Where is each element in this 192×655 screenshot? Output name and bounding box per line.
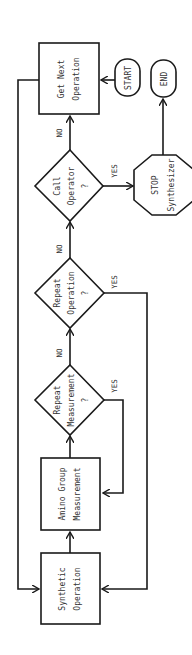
label-no-call-operator: NO xyxy=(55,128,64,138)
amino-line2: Measurement xyxy=(73,467,82,520)
synthetic-line2: Operation xyxy=(73,567,82,611)
repeat-measurement-line1: Repeat xyxy=(53,385,62,414)
node-repeat-measurement: Repeat Measurement ? xyxy=(35,365,104,435)
repeat-operation-line2: Operation xyxy=(67,271,76,315)
node-start: START xyxy=(115,59,140,96)
node-repeat-operation: Repeat Operation ? xyxy=(35,258,104,328)
repeat-measurement-line2: Measurement xyxy=(67,373,76,426)
flowchart: Get Next Operation START END Call Operat… xyxy=(0,0,192,655)
edge-repeat-operation-yes xyxy=(102,293,147,589)
node-end: END xyxy=(151,60,176,97)
edge-get-next-to-synthetic xyxy=(18,80,39,589)
label-yes-call-operator: YES xyxy=(110,164,119,178)
node-call-operator: Call Operator ? xyxy=(35,150,103,221)
repeat-operation-line1: Repeat xyxy=(53,278,62,307)
call-operator-line1: Call xyxy=(53,176,62,195)
repeat-operation-line3: ? xyxy=(81,290,90,295)
synthetic-line1: Synthetic xyxy=(58,567,67,611)
node-stop-synthesizer: STOP Synthesizer xyxy=(134,155,192,215)
call-operator-line3: ? xyxy=(81,183,90,188)
call-operator-line2: Operator xyxy=(67,167,76,206)
edge-repeat-measurement-yes xyxy=(103,400,123,493)
end-label: END xyxy=(160,72,169,87)
get-next-line2: Operation xyxy=(72,57,81,101)
label-yes-repeat-operation: YES xyxy=(110,275,119,289)
label-no-repeat-operation: NO xyxy=(55,244,64,254)
node-synthetic-operation: Synthetic Operation xyxy=(41,553,100,624)
label-no-repeat-measurement: NO xyxy=(55,348,64,358)
node-amino-group-measurement: Amino Group Measurement xyxy=(41,458,100,530)
stop-line2: Synthesizer xyxy=(167,158,176,211)
label-yes-repeat-measurement: YES xyxy=(110,379,119,393)
repeat-measurement-line3: ? xyxy=(81,397,90,402)
node-get-next-operation: Get Next Operation xyxy=(39,43,99,114)
start-label: START xyxy=(124,66,133,90)
get-next-line1: Get Next xyxy=(57,60,66,99)
stop-line1: STOP xyxy=(151,175,160,194)
amino-line1: Amino Group xyxy=(58,467,67,520)
